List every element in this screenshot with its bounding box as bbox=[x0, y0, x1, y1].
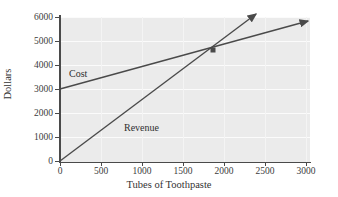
cost-line bbox=[60, 21, 308, 89]
y-axis-title: Dollars bbox=[2, 54, 14, 114]
data-series-layer bbox=[0, 0, 338, 197]
series-label-cost: Cost bbox=[69, 68, 87, 79]
x-axis-title: Tubes of Toothpaste bbox=[0, 179, 338, 191]
revenue-line bbox=[60, 14, 256, 161]
chart-figure: 6000 5000 4000 3000 2000 1000 0 0 500 10… bbox=[0, 0, 338, 197]
series-label-revenue: Revenue bbox=[124, 122, 159, 133]
break-even-point-marker bbox=[211, 48, 216, 53]
